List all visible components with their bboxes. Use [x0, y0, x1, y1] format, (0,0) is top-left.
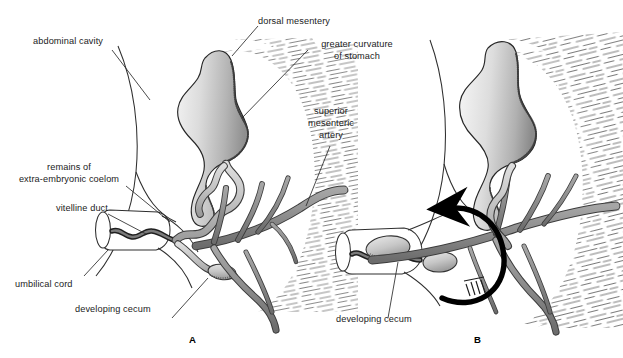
- label-vitelline-duct: vitelline duct: [56, 203, 108, 215]
- label-dorsal-mesentery: dorsal mesentery: [258, 16, 330, 28]
- label-greater-curvature-of-stomach-line2: of stomach: [305, 51, 409, 63]
- panel-caption-a: A: [189, 334, 196, 345]
- label-superior-mesenteric-artery-line1: superior: [300, 106, 362, 118]
- label-developing-cecum-b: developing cecum: [336, 314, 412, 326]
- label-umbilical-cord: umbilical cord: [15, 279, 73, 291]
- label-remains-of-extra-embryonic-coelom-line2: extra-embryonic coelom: [0, 174, 138, 186]
- label-developing-cecum-a: developing cecum: [75, 304, 151, 316]
- label-superior-mesenteric-artery-line2: mesenteric: [300, 118, 362, 130]
- figure-canvas: abdominal cavity remains of extra-embryo…: [0, 0, 623, 358]
- label-greater-curvature-of-stomach-line1: greater curvature: [305, 39, 409, 51]
- panel-b-drawing: [336, 32, 623, 332]
- panel-caption-b: B: [474, 334, 481, 345]
- label-abdominal-cavity: abdominal cavity: [33, 36, 103, 48]
- label-superior-mesenteric-artery-line3: artery: [300, 130, 362, 142]
- dorsal-mesentery-shading-a: [220, 30, 600, 316]
- label-remains-of-extra-embryonic-coelom-line1: remains of: [0, 162, 138, 174]
